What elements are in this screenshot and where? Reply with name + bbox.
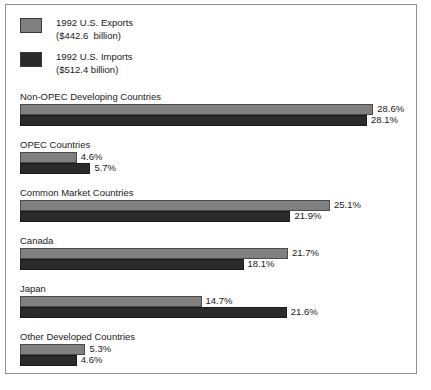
bar-row: 21.9% [6,211,416,222]
bar-row: 28.6% [6,104,416,115]
bar-exports [20,104,373,115]
bar-imports [20,115,367,126]
bar-imports [20,163,90,174]
chart-plot-area: Non-OPEC Developing Countries28.6%28.1%O… [6,5,416,373]
bar-imports [20,307,287,318]
category-label: Canada [20,235,53,247]
bar-value-label: 14.7% [206,295,233,307]
bar-value-label: 5.7% [94,162,116,174]
bar-pair: 21.7%18.1% [6,248,416,270]
category-label: Japan [20,283,46,295]
bar-value-label: 25.1% [334,199,361,211]
bar-value-label: 21.7% [292,247,319,259]
bar-value-label: 4.6% [81,354,103,366]
bar-imports [20,259,244,270]
bar-pair: 4.6%5.7% [6,152,416,174]
category-label: Other Developed Countries [20,331,135,343]
bar-row: 4.6% [6,152,416,163]
category-label: Non-OPEC Developing Countries [20,91,161,103]
category-label: OPEC Countries [20,139,90,151]
bar-value-label: 28.1% [371,114,398,126]
bar-exports [20,152,77,163]
bar-row: 21.7% [6,248,416,259]
bar-row: 21.6% [6,307,416,318]
bar-imports [20,355,77,366]
bar-row: 4.6% [6,355,416,366]
chart-frame: 1992 U.S. Exports($442.6 billion)1992 U.… [5,4,417,374]
bar-row: 5.7% [6,163,416,174]
bar-row: 25.1% [6,200,416,211]
bar-row: 18.1% [6,259,416,270]
bar-pair: 28.6%28.1% [6,104,416,126]
bar-exports [20,200,330,211]
bar-exports [20,296,202,307]
bar-row: 5.3% [6,344,416,355]
category-label: Common Market Countries [20,187,134,199]
bar-pair: 25.1%21.9% [6,200,416,222]
bar-value-label: 21.9% [294,210,321,222]
bar-value-label: 21.6% [291,306,318,318]
bar-imports [20,211,290,222]
bar-value-label: 18.1% [248,258,275,270]
bar-pair: 14.7%21.6% [6,296,416,318]
bar-pair: 5.3%4.6% [6,344,416,366]
bar-row: 28.1% [6,115,416,126]
bar-exports [20,344,85,355]
bar-row: 14.7% [6,296,416,307]
